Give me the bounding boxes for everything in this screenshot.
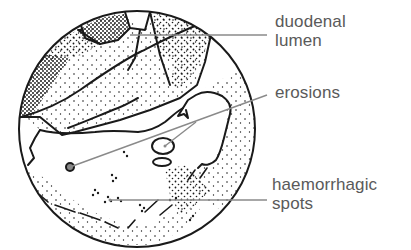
label-duodenal-lumen: duodenal lumen <box>275 12 346 50</box>
label-erosions: erosions <box>275 83 340 102</box>
label-haemorrhagic-spots-line1: haemorrhagic <box>272 175 377 194</box>
leader-erosions-b <box>165 122 196 146</box>
label-erosions-line1: erosions <box>275 83 340 102</box>
label-duodenal-lumen-line2: lumen <box>275 31 346 50</box>
erosion-outlines <box>66 138 174 171</box>
label-haemorrhagic-spots: haemorrhagic spots <box>272 175 377 213</box>
label-haemorrhagic-spots-line2: spots <box>272 194 377 213</box>
label-duodenal-lumen-line1: duodenal <box>275 12 346 31</box>
